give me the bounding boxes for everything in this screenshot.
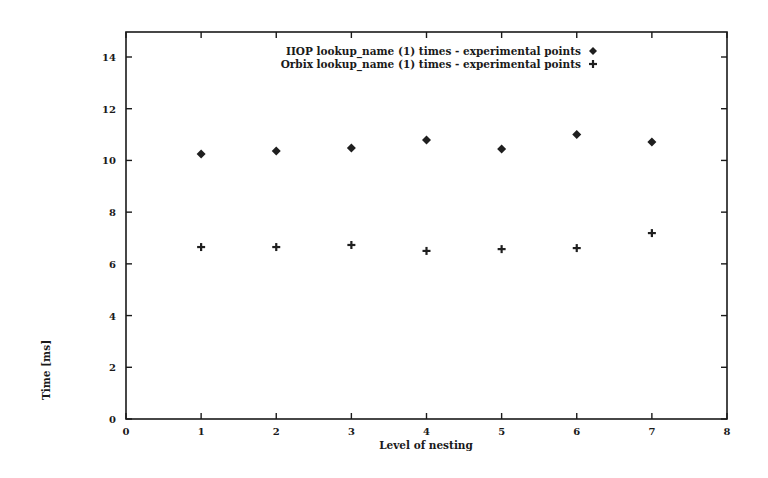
y-tick-label: 10: [102, 155, 116, 166]
plus-point: [197, 243, 205, 251]
x-tick-label: 5: [498, 426, 505, 437]
y-tick-label: 12: [102, 104, 116, 115]
data-points: [197, 130, 657, 255]
plus-point: [272, 243, 280, 251]
x-tick-label: 3: [348, 426, 355, 437]
y-tick-label: 2: [109, 362, 116, 373]
scatter-plot: 01234567802468101214 IIOP lookup_name (1…: [0, 0, 768, 478]
y-tick-label: 0: [109, 414, 116, 425]
plus-point: [498, 245, 506, 253]
x-tick-label: 1: [198, 426, 205, 437]
diamond-point: [647, 138, 656, 147]
axis-tick-labels: 01234567802468101214: [102, 52, 730, 437]
x-tick-label: 4: [423, 426, 430, 437]
plot-frame: [126, 32, 727, 419]
diamond-point: [197, 149, 206, 158]
diamond-point: [572, 130, 581, 139]
y-axis-label: Time [ms]: [40, 340, 52, 400]
x-tick-label: 0: [123, 426, 130, 437]
x-tick-label: 7: [648, 426, 655, 437]
y-tick-label: 4: [109, 311, 116, 322]
plus-point: [648, 229, 656, 237]
y-tick-label: 6: [109, 259, 116, 270]
diamond-marker-icon: [589, 47, 597, 55]
diamond-point: [347, 144, 356, 153]
plus-point: [573, 244, 581, 252]
legend-label-iiop: IIOP lookup_name (1) times - experimenta…: [286, 45, 581, 59]
plus-marker-icon: [589, 60, 597, 68]
plus-point: [423, 247, 431, 255]
legend: IIOP lookup_name (1) times - experimenta…: [281, 45, 597, 72]
y-tick-label: 14: [102, 52, 116, 63]
x-tick-label: 2: [273, 426, 280, 437]
x-tick-label: 8: [724, 426, 731, 437]
plus-point: [347, 241, 355, 249]
diamond-point: [497, 145, 506, 154]
y-tick-label: 8: [109, 207, 116, 218]
axis-ticks: [126, 32, 727, 419]
x-axis-label: Level of nesting: [379, 439, 473, 451]
legend-label-orbix: Orbix lookup_name (1) times - experiment…: [281, 58, 581, 72]
diamond-point: [422, 136, 431, 145]
chart: 01234567802468101214 IIOP lookup_name (1…: [0, 0, 768, 478]
diamond-point: [272, 147, 281, 156]
x-tick-label: 6: [573, 426, 580, 437]
